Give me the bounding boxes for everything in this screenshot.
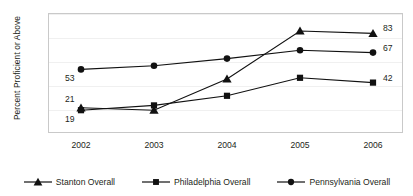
data-point-marker <box>224 55 231 62</box>
series-pennsylvania-overall <box>78 47 377 73</box>
point-value-label: 53 <box>65 74 75 83</box>
line-chart: Percent Proficient or Above 020406080100… <box>0 0 413 196</box>
data-point-marker <box>297 47 304 54</box>
legend-label: Philadelphia Overall <box>174 177 250 187</box>
data-point-marker <box>297 75 303 81</box>
data-point-marker <box>224 93 230 99</box>
legend-entry-philadelphia-overall[interactable]: Philadelphia Overall <box>141 176 250 188</box>
data-point-marker <box>151 102 157 108</box>
legend-label: Stanton Overall <box>56 177 115 187</box>
point-value-label: 19 <box>65 115 75 124</box>
point-value-label: 42 <box>383 74 393 83</box>
series-stanton-overall <box>76 27 377 114</box>
series-layer <box>48 13 403 133</box>
x-axis-tick: 2005 <box>275 140 325 150</box>
data-point-marker <box>78 107 84 113</box>
data-point-marker <box>78 66 85 73</box>
point-value-label: 67 <box>383 44 393 53</box>
legend-label: Pennsylvania Overall <box>309 177 390 187</box>
point-value-label: 83 <box>383 24 393 33</box>
x-axis-tick: 2006 <box>348 140 398 150</box>
data-point-marker <box>370 49 377 56</box>
chart-legend: Stanton OverallPhiladelphia OverallPenns… <box>0 172 413 192</box>
point-value-label: 21 <box>65 95 75 104</box>
x-axis-tick: 2002 <box>56 140 106 150</box>
legend-entry-pennsylvania-overall[interactable]: Pennsylvania Overall <box>276 176 390 188</box>
circle-marker-icon <box>276 176 306 188</box>
square-marker-icon <box>141 176 171 188</box>
data-point-marker <box>370 80 376 86</box>
triangle-marker-icon <box>23 176 53 188</box>
data-point-marker <box>151 63 158 70</box>
y-axis-title: Percent Proficient or Above <box>12 0 22 138</box>
data-point-marker <box>222 75 231 83</box>
x-axis-tick: 2003 <box>129 140 179 150</box>
x-axis-tick: 2004 <box>202 140 252 150</box>
legend-entry-stanton-overall[interactable]: Stanton Overall <box>23 176 115 188</box>
